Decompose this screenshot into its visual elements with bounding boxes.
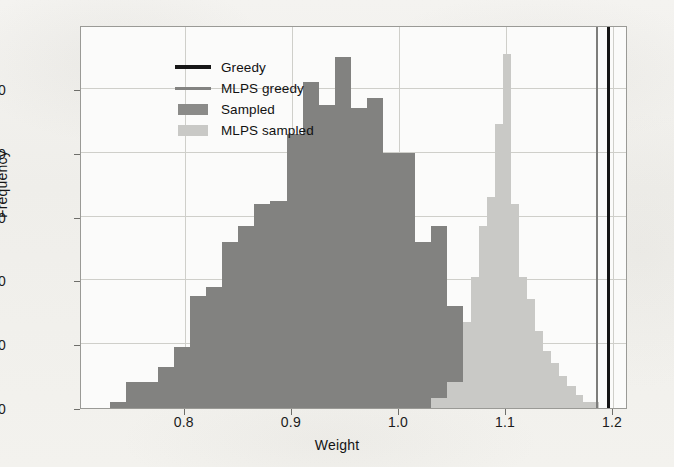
legend-marker <box>175 87 211 90</box>
histogram-bar-sampled <box>254 204 270 408</box>
histogram-figure: GreedyMLPS greedySampledMLPS sampled 020… <box>0 0 674 467</box>
legend-item-sampled: Sampled <box>175 101 314 117</box>
legend-item-greedy: Greedy <box>175 59 314 75</box>
histogram-bar-mlps-sampled <box>535 331 544 408</box>
histogram-bar-sampled <box>174 347 190 408</box>
plot-area: GreedyMLPS greedySampledMLPS sampled <box>80 26 627 409</box>
legend-swatch-icon <box>175 60 211 74</box>
legend-marker <box>175 65 211 69</box>
histogram-bar-mlps-sampled <box>559 376 566 408</box>
legend-label: Greedy <box>221 60 266 75</box>
gridline-vertical <box>613 27 614 408</box>
histogram-bar-mlps-sampled <box>487 197 496 408</box>
histogram-bar-sampled <box>158 367 174 408</box>
y-axis-tick-label: 100 <box>0 82 6 98</box>
legend-swatch-icon <box>175 123 211 137</box>
legend-label: Sampled <box>221 102 275 117</box>
y-axis-tick-mark <box>74 345 80 346</box>
x-axis-tick-mark <box>398 409 399 415</box>
legend-item-mlps-sampled: MLPS sampled <box>175 122 314 138</box>
x-axis-tick-label: 0.9 <box>281 414 301 430</box>
x-axis-tick-mark <box>505 409 506 415</box>
legend-swatch-icon <box>175 81 211 95</box>
histogram-bar-sampled <box>238 226 254 408</box>
histogram-bar-sampled <box>206 287 222 408</box>
histogram-bar-mlps-sampled <box>431 398 447 408</box>
histogram-bar-sampled <box>126 382 142 408</box>
histogram-bar-sampled <box>367 98 383 408</box>
histogram-bar-mlps-sampled <box>543 351 550 408</box>
y-axis-tick-label: 40 <box>0 273 6 289</box>
histogram-bar-mlps-sampled <box>511 204 518 408</box>
x-axis-tick-mark <box>291 409 292 415</box>
vline-greedy <box>607 27 610 408</box>
x-axis-tick-label: 1.0 <box>388 414 408 430</box>
histogram-bar-sampled <box>399 153 415 408</box>
x-axis-tick-label: 0.8 <box>174 414 194 430</box>
vline-mlps-greedy <box>596 27 598 408</box>
histogram-bar-mlps-sampled <box>503 54 512 408</box>
legend-marker <box>178 125 208 136</box>
legend-label: MLPS sampled <box>221 123 314 138</box>
x-axis-tick-label: 1.2 <box>602 414 622 430</box>
histogram-bar-mlps-sampled <box>519 277 528 408</box>
histogram-bar-sampled <box>142 382 158 408</box>
y-axis-tick-mark <box>74 409 80 410</box>
histogram-bar-sampled <box>222 242 238 408</box>
y-axis-label: Frequency <box>0 150 10 218</box>
histogram-bar-sampled <box>351 108 367 408</box>
histogram-bar-mlps-sampled <box>495 124 502 408</box>
histogram-bar-sampled <box>335 57 351 408</box>
histogram-bar-sampled <box>383 153 399 408</box>
histogram-bar-mlps-sampled <box>471 277 480 408</box>
histogram-bar-mlps-sampled <box>463 322 470 408</box>
x-axis-label: Weight <box>0 437 674 453</box>
x-axis-tick-label: 1.1 <box>495 414 515 430</box>
histogram-bar-mlps-sampled <box>576 395 583 408</box>
y-axis-tick-mark <box>74 90 80 91</box>
histogram-bar-mlps-sampled <box>447 382 463 408</box>
legend-item-mlps-greedy: MLPS greedy <box>175 80 314 96</box>
legend-marker <box>178 104 208 115</box>
histogram-bar-sampled <box>431 226 447 408</box>
x-axis-tick-mark <box>612 409 613 415</box>
x-axis-tick-mark <box>184 409 185 415</box>
y-axis-tick-label: 0 <box>0 401 6 417</box>
legend-swatch-icon <box>175 102 211 116</box>
histogram-bar-sampled <box>190 296 206 408</box>
histogram-bar-mlps-sampled <box>527 299 534 408</box>
gridline-horizontal <box>81 88 626 89</box>
histogram-bar-mlps-sampled <box>567 386 576 408</box>
y-axis-tick-mark <box>74 218 80 219</box>
histogram-bar-mlps-sampled <box>551 363 560 408</box>
legend: GreedyMLPS greedySampledMLPS sampled <box>175 59 314 138</box>
histogram-bar-sampled <box>110 402 126 408</box>
y-axis-tick-label: 20 <box>0 337 6 353</box>
y-axis-tick-mark <box>74 154 80 155</box>
y-axis-tick-mark <box>74 281 80 282</box>
legend-label: MLPS greedy <box>221 81 304 96</box>
histogram-bar-sampled <box>287 134 303 408</box>
histogram-bar-mlps-sampled <box>479 226 486 408</box>
histogram-bar-sampled <box>270 201 286 408</box>
histogram-bar-sampled <box>415 242 431 408</box>
histogram-bar-sampled <box>319 105 335 408</box>
